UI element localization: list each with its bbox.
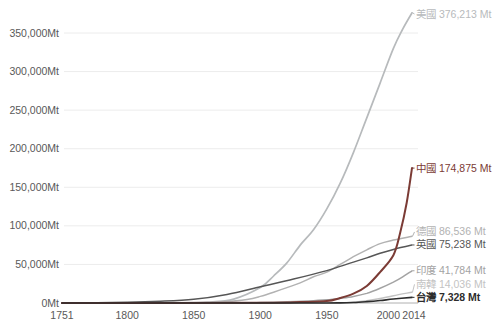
x-axis-tick-label: 1900 bbox=[249, 309, 273, 321]
series-label-usa: 美國 376,213 Mt bbox=[416, 8, 492, 20]
series-label-india: 印度 41,784 Mt bbox=[416, 264, 486, 276]
chart-container: 0Mt50,000Mt100,000Mt150,000Mt200,000Mt25… bbox=[0, 0, 494, 335]
y-axis-tick-label: 250,000Mt bbox=[9, 104, 59, 116]
y-axis-tick-label: 150,000Mt bbox=[9, 181, 59, 193]
y-axis-tick-label: 50,000Mt bbox=[15, 258, 59, 270]
y-axis-tick-label: 200,000Mt bbox=[9, 142, 59, 154]
series-label-south-korea: 南韓 14,036 Mt bbox=[416, 278, 486, 290]
y-axis-tick-label: 300,000Mt bbox=[9, 65, 59, 77]
x-axis-tick-label: 2000 bbox=[377, 309, 401, 321]
y-axis-tick-label: 350,000Mt bbox=[9, 27, 59, 39]
label-leader-usa bbox=[413, 13, 415, 14]
label-leader-germany bbox=[413, 232, 415, 236]
series-label-germany: 德國 86,536 Mt bbox=[416, 225, 486, 237]
series-line-china bbox=[62, 168, 412, 303]
label-leader-south-korea bbox=[413, 284, 415, 292]
y-axis-tick-label: 100,000Mt bbox=[9, 219, 59, 231]
series-label-uk: 英國 75,238 Mt bbox=[416, 238, 486, 250]
x-axis-tick-label: 1950 bbox=[315, 309, 339, 321]
emissions-chart: 0Mt50,000Mt100,000Mt150,000Mt200,000Mt25… bbox=[0, 0, 494, 335]
series-label-taiwan: 台灣 7,328 Mt bbox=[416, 291, 481, 303]
x-axis-tick-label: 2014 bbox=[402, 309, 426, 321]
y-axis-tick-label: 0Mt bbox=[41, 297, 59, 309]
x-axis-tick-label: 1800 bbox=[116, 309, 140, 321]
series-label-china: 中國 174,875 Mt bbox=[416, 162, 492, 174]
x-axis-tick-label: 1751 bbox=[50, 309, 74, 321]
x-axis-tick-label: 1850 bbox=[182, 309, 206, 321]
